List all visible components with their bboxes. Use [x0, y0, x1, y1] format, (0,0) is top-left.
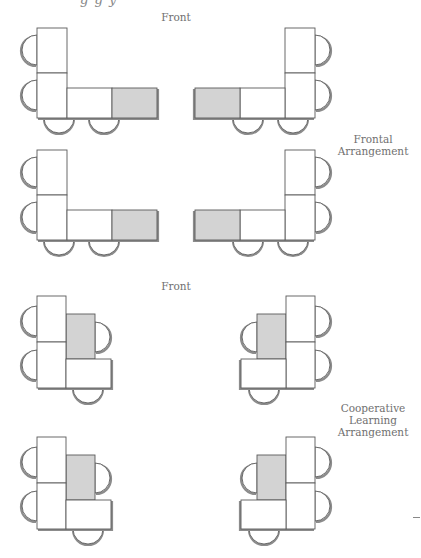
- frontal-group-3: [21, 150, 158, 256]
- cooperative-group-1: [21, 296, 112, 404]
- frontal-group-2: [194, 28, 331, 134]
- frontal-group-1: [21, 28, 158, 134]
- classroom-layout-diagram: [0, 0, 421, 558]
- cooperative-group-3: [21, 437, 112, 545]
- cooperative-group-2: [240, 296, 331, 404]
- frontal-group-4: [194, 150, 331, 256]
- cooperative-group-4: [240, 437, 331, 545]
